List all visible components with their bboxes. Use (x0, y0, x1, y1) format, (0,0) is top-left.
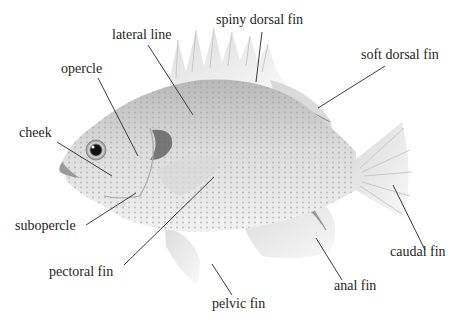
label-anal-fin: anal fin (334, 279, 376, 293)
caudal-fin-shape (355, 122, 412, 218)
leader-caudal-fin (393, 185, 425, 250)
label-pectoral-fin: pectoral fin (49, 265, 113, 279)
label-subopercle: subopercle (15, 219, 76, 233)
label-caudal-fin: caudal fin (390, 245, 446, 259)
label-lateral-line: lateral line (112, 28, 171, 42)
label-spiny-dorsal-fin: spiny dorsal fin (216, 13, 303, 27)
label-soft-dorsal-fin: soft dorsal fin (361, 48, 439, 62)
label-opercle: opercle (61, 62, 102, 76)
leader-soft-dorsal-fin (318, 66, 385, 108)
pelvic-fin-shape (165, 228, 200, 284)
leader-pelvic-fin (212, 264, 232, 295)
label-cheek: cheek (19, 126, 52, 140)
label-pelvic-fin: pelvic fin (212, 297, 265, 311)
